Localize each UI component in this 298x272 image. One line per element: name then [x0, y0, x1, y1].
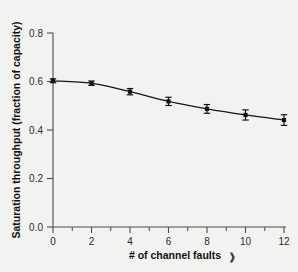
y-axis-title: Saturation throughput (fraction of capac… [10, 22, 22, 239]
stray-mark-glyph: ❱ [228, 251, 236, 263]
y-tick-label: 0.8 [29, 28, 43, 39]
x-axis-title: # of channel faults [129, 249, 221, 261]
x-axis-ticks [53, 227, 284, 233]
chart-figure: 0.00.20.40.60.8 024681012 # of channel f… [0, 0, 298, 272]
y-tick-label: 0.0 [29, 222, 43, 233]
data-point-marker [89, 81, 93, 85]
y-tick-label: 0.4 [29, 125, 43, 136]
x-axis-tick-labels: 024681012 [50, 236, 290, 247]
y-axis-tick-labels: 0.00.20.40.60.8 [29, 28, 43, 233]
data-point-marker [282, 118, 286, 122]
data-point-marker [166, 99, 170, 103]
x-tick-label: 6 [166, 236, 172, 247]
x-tick-label: 0 [50, 236, 56, 247]
data-point-marker [51, 79, 55, 83]
chart-canvas: 0.00.20.40.60.8 024681012 # of channel f… [0, 0, 298, 272]
x-tick-label: 4 [127, 236, 133, 247]
data-point-marker [128, 90, 132, 94]
x-tick-label: 10 [240, 236, 252, 247]
x-tick-label: 12 [278, 236, 290, 247]
data-point-marker [243, 113, 247, 117]
x-tick-label: 8 [204, 236, 210, 247]
x-tick-label: 2 [89, 236, 95, 247]
data-point-marker [205, 107, 209, 111]
y-axis-ticks [47, 33, 53, 227]
y-tick-label: 0.2 [29, 173, 43, 184]
y-tick-label: 0.6 [29, 76, 43, 87]
